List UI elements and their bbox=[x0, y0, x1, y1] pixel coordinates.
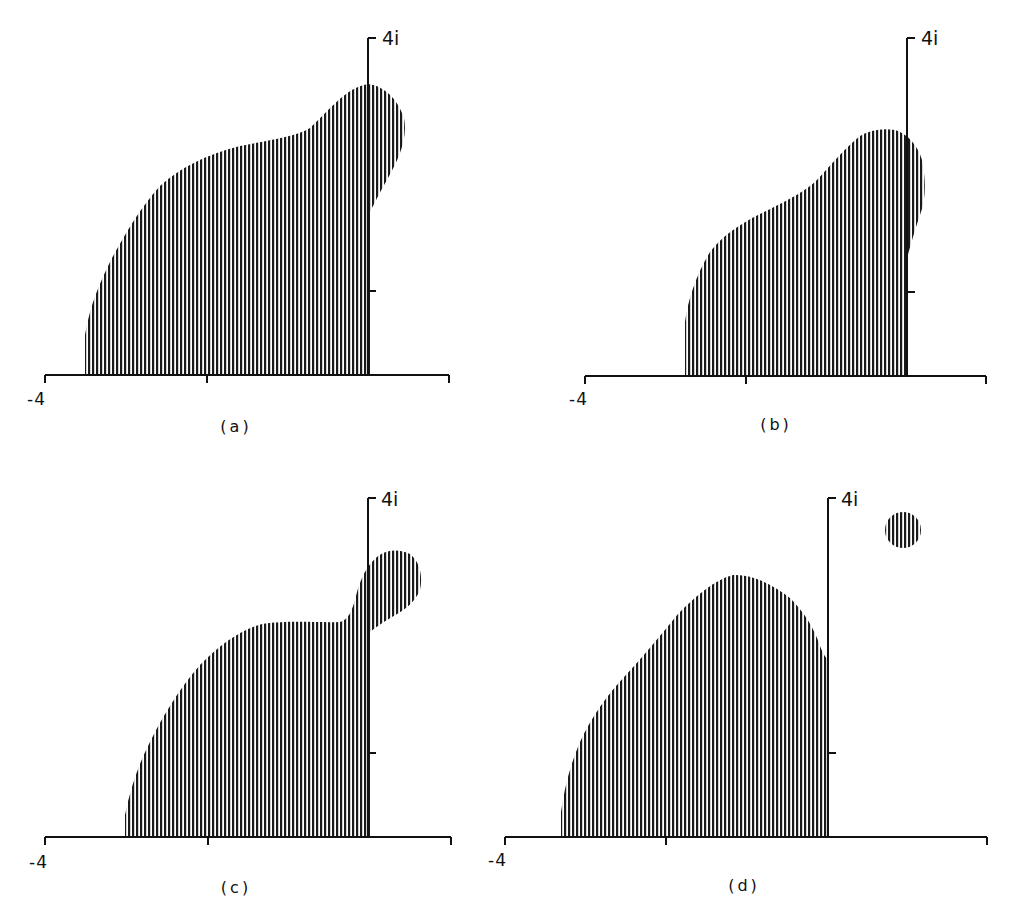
panel-c-caption: (c) bbox=[221, 878, 251, 897]
panel-b-caption: (b) bbox=[760, 415, 792, 434]
panel-b: -4 4i (b) bbox=[569, 27, 986, 434]
panel-a-x-min-label: -4 bbox=[27, 389, 46, 409]
panel-d-x-min-label: -4 bbox=[488, 850, 507, 870]
figure: -4 4i (a) -4 4i (b) -4 4i (c) bbox=[0, 0, 1011, 913]
panel-b-x-min-label: -4 bbox=[569, 389, 588, 409]
panel-a: -4 4i (a) bbox=[27, 27, 449, 436]
panel-a-y-max-label: 4i bbox=[382, 27, 399, 49]
panel-d-y-max-label: 4i bbox=[841, 488, 858, 510]
panel-c-y-max-label: 4i bbox=[381, 488, 398, 510]
panel-c-region bbox=[125, 550, 421, 837]
panel-b-region bbox=[685, 129, 925, 376]
panel-a-caption: (a) bbox=[220, 417, 251, 436]
panel-d-isolated-region bbox=[885, 512, 921, 548]
panel-b-y-max-label: 4i bbox=[921, 27, 938, 49]
panel-d: -4 4i (d) bbox=[488, 488, 987, 895]
panel-c: -4 4i (c) bbox=[29, 488, 451, 897]
panel-d-caption: (d) bbox=[728, 876, 760, 895]
panel-c-x-min-label: -4 bbox=[29, 852, 48, 872]
panel-a-region bbox=[85, 84, 405, 375]
panel-d-main-region bbox=[561, 575, 828, 837]
